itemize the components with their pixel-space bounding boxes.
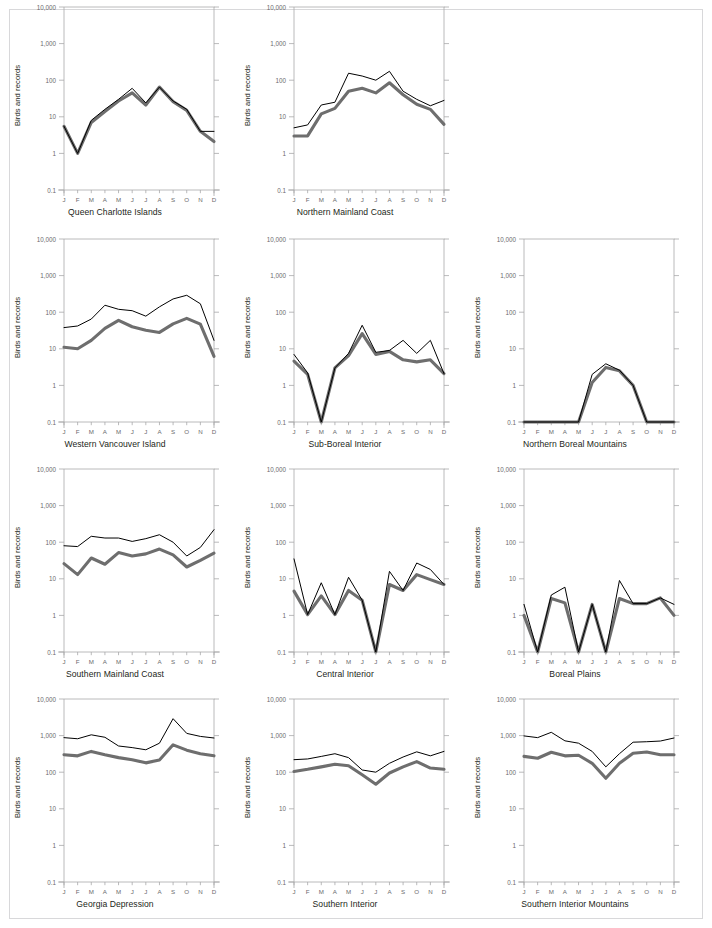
panel-title: Sub-Boreal Interior (230, 439, 460, 449)
y-tick-label: 1,000 (500, 502, 516, 509)
y-tick-label: 10,000 (267, 236, 287, 243)
y-tick-label: 100 (45, 309, 56, 316)
y-axis-title-text: Birds and records (244, 296, 253, 357)
x-tick-label: M (346, 658, 351, 665)
x-tick-label: F (536, 428, 540, 435)
panel-queen-charlotte-islands: 10,0001,0001001010.1JFMAMJJASONDBirds an… (0, 0, 230, 232)
y-tick-label: 10,000 (267, 4, 287, 11)
x-tick-label: M (576, 658, 581, 665)
y-tick-label: 10 (49, 345, 57, 352)
y-axis-title: Birds and records (10, 692, 26, 882)
y-tick-label: 10 (509, 805, 517, 812)
y-tick-label: 10 (279, 575, 287, 582)
panel-title: Northern Boreal Mountains (460, 439, 690, 449)
plot-area: 10,0001,0001001010.1JFMAMJJASOND (0, 462, 230, 678)
x-tick-label: S (401, 196, 405, 203)
x-tick-label: J (131, 658, 134, 665)
x-tick-label: J (144, 658, 147, 665)
x-tick-label: J (131, 428, 134, 435)
x-tick-label: J (591, 428, 594, 435)
panel-title: Queen Charlotte Islands (0, 207, 230, 217)
x-tick-label: M (576, 888, 581, 895)
x-tick-label: J (591, 888, 594, 895)
panel-title: Georgia Depression (0, 899, 230, 909)
y-tick-label: 1,000 (40, 502, 56, 509)
y-tick-label: 1,000 (270, 272, 286, 279)
x-tick-label: A (387, 658, 392, 665)
panel-title: Central Interior (230, 669, 460, 679)
x-tick-label: M (319, 888, 324, 895)
y-tick-label: 10,000 (267, 466, 287, 473)
y-tick-label: 1,000 (40, 272, 56, 279)
x-tick-label: N (428, 196, 432, 203)
x-tick-label: A (387, 428, 392, 435)
x-tick-label: A (333, 428, 338, 435)
x-tick-label: M (576, 428, 581, 435)
x-tick-label: J (62, 888, 65, 895)
y-tick-label: 1 (512, 612, 516, 619)
y-tick-label: 10,000 (497, 236, 517, 243)
plot-area: 10,0001,0001001010.1JFMAMJJASOND (230, 232, 460, 448)
x-tick-label: O (644, 888, 649, 895)
x-tick-label: S (631, 658, 635, 665)
x-tick-label: A (563, 428, 568, 435)
chart-panel: 10,0001,0001001010.1JFMAMJJASONDBirds an… (0, 692, 230, 928)
x-tick-label: J (522, 888, 525, 895)
y-tick-label: 10 (279, 113, 287, 120)
x-tick-label: M (116, 196, 121, 203)
x-tick-label: M (549, 658, 554, 665)
y-tick-label: 10,000 (37, 4, 57, 11)
x-tick-label: J (361, 888, 364, 895)
x-tick-label: J (62, 658, 65, 665)
plot-area: 10,0001,0001001010.1JFMAMJJASOND (230, 0, 460, 216)
y-tick-label: 1 (282, 150, 286, 157)
y-axis-title: Birds and records (470, 462, 486, 652)
panel-title: Southern Interior Mountains (460, 899, 690, 909)
x-tick-label: S (171, 428, 175, 435)
x-tick-label: N (198, 428, 202, 435)
series-line-records (64, 295, 214, 340)
y-tick-label: 0.1 (47, 419, 56, 426)
x-tick-label: A (387, 196, 392, 203)
x-tick-label: J (144, 196, 147, 203)
x-tick-label: J (604, 428, 607, 435)
y-tick-label: 100 (275, 539, 286, 546)
x-tick-label: J (604, 658, 607, 665)
x-tick-label: M (346, 196, 351, 203)
x-tick-label: A (333, 196, 338, 203)
chart-panel: 10,0001,0001001010.1JFMAMJJASONDBirds an… (230, 692, 460, 928)
y-tick-label: 100 (275, 77, 286, 84)
x-tick-label: J (374, 428, 377, 435)
y-tick-label: 1 (52, 382, 56, 389)
x-tick-label: O (414, 888, 419, 895)
x-tick-label: A (103, 658, 108, 665)
panel-title: Northern Mainland Coast (230, 207, 460, 217)
y-axis-title-text: Birds and records (14, 64, 23, 125)
x-tick-label: F (536, 888, 540, 895)
x-tick-label: N (658, 658, 662, 665)
panel-georgia-depression: 10,0001,0001001010.1JFMAMJJASONDBirds an… (0, 692, 230, 928)
x-tick-label: F (306, 196, 310, 203)
x-tick-label: M (89, 888, 94, 895)
plot-area: 10,0001,0001001010.1JFMAMJJASOND (0, 232, 230, 448)
y-tick-label: 10,000 (37, 696, 57, 703)
x-tick-label: J (374, 196, 377, 203)
x-tick-label: O (414, 196, 419, 203)
x-tick-label: N (658, 888, 662, 895)
panel-title: Boreal Plains (460, 669, 690, 679)
y-axis-title-text: Birds and records (14, 296, 23, 357)
x-tick-label: M (549, 888, 554, 895)
y-axis-title-text: Birds and records (244, 526, 253, 587)
x-tick-label: D (672, 658, 677, 665)
y-axis-title-text: Birds and records (244, 64, 253, 125)
series-line-birds (64, 745, 214, 763)
y-tick-label: 100 (505, 539, 516, 546)
x-tick-label: D (442, 428, 447, 435)
x-tick-label: F (306, 888, 310, 895)
y-tick-label: 10 (49, 805, 57, 812)
series-line-records (64, 530, 214, 556)
x-tick-label: S (631, 888, 635, 895)
x-tick-label: M (89, 658, 94, 665)
x-tick-label: O (644, 658, 649, 665)
y-tick-label: 10,000 (37, 466, 57, 473)
